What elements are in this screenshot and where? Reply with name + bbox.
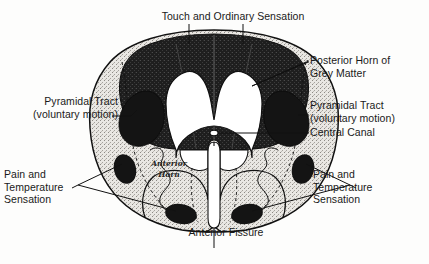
label-pyramidal-tract-left: Pyramidal Tract (voluntary motion)	[0, 95, 118, 120]
label-central-canal: Central Canal	[310, 126, 422, 139]
central-canal	[210, 130, 218, 136]
label-posterior-horn-of-grey-matter: Posterior Horn of Grey Matter	[310, 54, 428, 79]
label-pain-and-temperature-sensation-left: Pain and Temperature Sensation	[4, 168, 114, 206]
anterior-fissure-cleft	[208, 142, 220, 228]
label-pain-and-temperature-sensation-right: Pain and Temperature Sensation	[313, 168, 425, 206]
label-anterior-horn: Anterior Horn	[137, 158, 201, 180]
label-touch-and-ordinary-sensation: Touch and Ordinary Sensation	[148, 10, 318, 23]
spinal-cord-diagram-page: Touch and Ordinary Sensation Posterior H…	[0, 0, 429, 264]
label-pyramidal-tract-right: Pyramidal Tract (voluntary motion)	[310, 99, 428, 124]
label-anterior-fissure: Anterior Fissure	[151, 226, 301, 239]
